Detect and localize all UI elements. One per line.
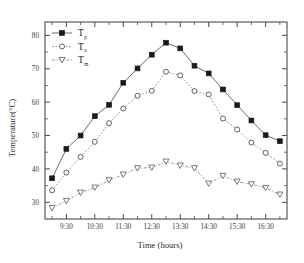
data-point bbox=[92, 114, 97, 119]
data-point bbox=[121, 106, 126, 111]
data-point bbox=[50, 176, 55, 181]
legend-marker bbox=[60, 31, 65, 36]
y-tick-label: 70 bbox=[32, 65, 40, 73]
x-tick-label: 16:30 bbox=[257, 223, 274, 231]
data-point bbox=[235, 127, 240, 132]
data-point bbox=[78, 133, 83, 138]
x-tick-label: 13:30 bbox=[172, 223, 189, 231]
x-tick-label: 15:30 bbox=[229, 223, 246, 231]
data-point bbox=[149, 52, 154, 57]
data-point bbox=[206, 92, 211, 97]
data-point bbox=[64, 170, 69, 175]
data-point bbox=[277, 139, 282, 144]
x-tick-label: 11:30 bbox=[115, 223, 132, 231]
y-tick-label: 40 bbox=[32, 166, 40, 174]
temperature-vs-time-chart: 304050607080 9:3010:3011:3012:3013:3014:… bbox=[0, 0, 304, 263]
data-point bbox=[121, 80, 126, 85]
data-point bbox=[78, 154, 83, 159]
legend-marker bbox=[60, 44, 65, 49]
y-tick-label: 60 bbox=[32, 99, 40, 107]
y-tick-label: 80 bbox=[32, 32, 40, 40]
data-point bbox=[249, 140, 254, 145]
data-point bbox=[64, 146, 69, 151]
x-tick-label: 10:30 bbox=[87, 223, 104, 231]
y-tick-label: 30 bbox=[32, 199, 40, 207]
data-point bbox=[263, 150, 268, 155]
data-point bbox=[164, 40, 169, 45]
data-point bbox=[164, 69, 169, 74]
data-point bbox=[221, 87, 226, 92]
data-point bbox=[92, 139, 97, 144]
data-point bbox=[249, 118, 254, 123]
x-axis-title: Time (hours) bbox=[138, 240, 183, 250]
data-point bbox=[135, 93, 140, 98]
data-point bbox=[220, 116, 225, 121]
x-tick-label: 14:30 bbox=[201, 223, 218, 231]
y-axis-title: Temperature(°C) bbox=[7, 99, 17, 157]
data-point bbox=[178, 46, 183, 51]
x-tick-label: 9:30 bbox=[60, 223, 73, 231]
data-point bbox=[277, 161, 282, 166]
data-point bbox=[107, 102, 112, 107]
data-point bbox=[135, 66, 140, 71]
data-point bbox=[149, 88, 154, 93]
data-point bbox=[50, 188, 55, 193]
chart-canvas: 304050607080 9:3010:3011:3012:3013:3014:… bbox=[0, 0, 304, 263]
data-point bbox=[192, 89, 197, 94]
x-tick-label: 12:30 bbox=[144, 223, 161, 231]
data-point bbox=[206, 71, 211, 76]
data-point bbox=[192, 63, 197, 68]
data-point bbox=[107, 121, 112, 126]
y-tick-label: 50 bbox=[32, 132, 40, 140]
data-point bbox=[263, 133, 268, 138]
data-point bbox=[178, 73, 183, 78]
data-point bbox=[235, 103, 240, 108]
